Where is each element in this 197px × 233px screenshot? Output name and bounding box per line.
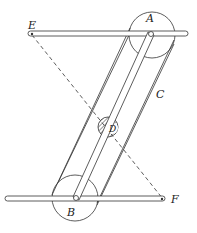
label-a: A <box>145 12 154 25</box>
bottom-bar <box>5 196 165 201</box>
top-bar <box>28 31 188 36</box>
joint-a <box>149 32 154 37</box>
label-c: C <box>156 88 165 101</box>
label-b: B <box>66 206 75 219</box>
label-e: E <box>27 19 36 32</box>
joint-e <box>31 33 33 35</box>
joint-b <box>74 196 79 201</box>
label-f: F <box>170 193 179 206</box>
linkage-diagram: A B C D E F <box>0 0 197 233</box>
dashed-line-ef <box>32 35 163 199</box>
diagram-canvas: A B C D E F <box>0 0 197 233</box>
rod-ab <box>73 32 154 200</box>
label-d: D <box>108 124 116 134</box>
joint-f <box>161 198 163 200</box>
